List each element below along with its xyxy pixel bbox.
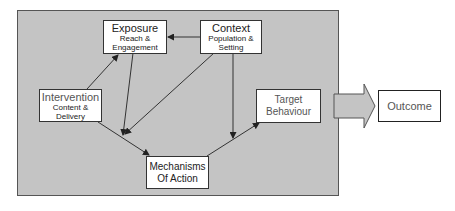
exposure-sub2: Engagement [104, 43, 166, 52]
mechanisms-line2: Of Action [147, 173, 208, 185]
node-outcome: Outcome [378, 90, 441, 122]
target-line1: Target [257, 94, 320, 106]
context-sub2: Setting [201, 43, 261, 52]
arrow-intervention-to-exposure [87, 55, 118, 89]
node-mechanisms: Mechanisms Of Action [146, 156, 209, 189]
arrow-exposure-to-mechanisms [123, 53, 133, 135]
context-sub1: Population & [201, 34, 261, 43]
block-arrow-to-outcome [334, 84, 375, 128]
arrow-context-to-mechanisms [125, 53, 214, 134]
intervention-title: Intervention [40, 91, 101, 103]
node-context: Context Population & Setting [200, 20, 262, 54]
intervention-sub1: Content & [40, 103, 101, 112]
outcome-title: Outcome [379, 100, 440, 112]
exposure-title: Exposure [104, 22, 166, 34]
target-line2: Behaviour [257, 106, 320, 118]
intervention-sub2: Delivery [40, 112, 101, 121]
node-target-behaviour: Target Behaviour [256, 89, 321, 123]
exposure-sub1: Reach & [104, 34, 166, 43]
node-intervention: Intervention Content & Delivery [39, 89, 102, 122]
context-title: Context [201, 22, 261, 34]
mechanisms-line1: Mechanisms [147, 161, 208, 173]
node-exposure: Exposure Reach & Engagement [103, 20, 167, 54]
